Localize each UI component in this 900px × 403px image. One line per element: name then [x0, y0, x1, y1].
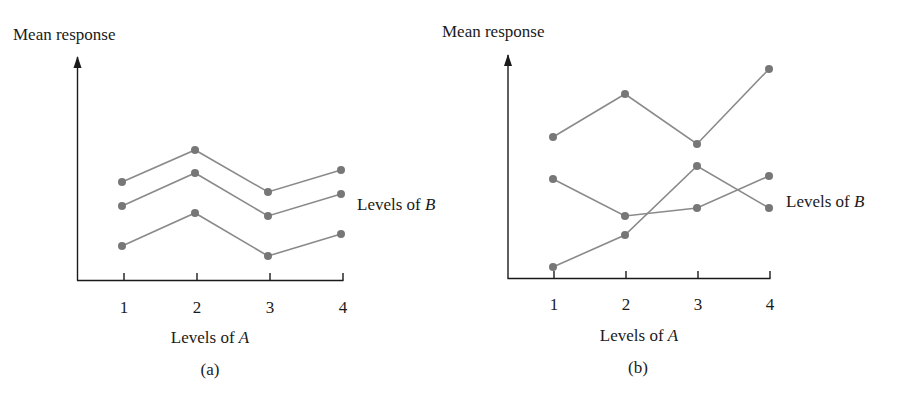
data-point — [191, 169, 199, 177]
data-point — [337, 166, 345, 174]
panel-b: Mean response 1 2 3 4 — [442, 22, 865, 377]
data-point — [264, 188, 272, 196]
panel-a-arrowhead-icon — [74, 56, 82, 68]
panel-b-legend-label: Levels of B — [786, 192, 865, 211]
panel-b-caption: (b) — [628, 358, 648, 377]
panel-a-series — [118, 146, 345, 260]
panel-b-arrowhead-icon — [504, 54, 512, 66]
data-point — [621, 212, 629, 220]
panel-b-series-line-1 — [553, 69, 769, 144]
panel-a-ylabel: Mean response — [13, 25, 115, 44]
panel-a-tick-label: 2 — [193, 298, 202, 317]
data-point — [693, 204, 701, 212]
panel-a-series-line-3 — [122, 213, 341, 256]
panel-a-caption: (a) — [201, 360, 220, 379]
panel-a-tick-label: 1 — [120, 298, 129, 317]
data-point — [765, 172, 773, 180]
data-point — [549, 133, 557, 141]
data-point — [118, 242, 126, 250]
data-point — [118, 178, 126, 186]
panel-a-tick-label: 3 — [266, 298, 275, 317]
figure: Mean response 1 2 3 4 — [0, 0, 900, 403]
panel-a: Mean response 1 2 3 4 — [13, 25, 436, 379]
data-point — [264, 212, 272, 220]
data-point — [621, 90, 629, 98]
panel-b-tick-label: 2 — [622, 295, 631, 314]
data-point — [693, 162, 701, 170]
data-point — [765, 204, 773, 212]
panel-b-series-line-3 — [553, 166, 769, 267]
panel-b-series — [549, 65, 773, 271]
panel-b-tick-label: 3 — [694, 295, 703, 314]
panel-b-tick-label: 1 — [550, 295, 559, 314]
panel-b-axes — [504, 54, 771, 279]
panel-a-legend-label: Levels of B — [357, 195, 436, 214]
panel-a-series-line-1 — [122, 150, 341, 192]
panel-b-series-line-2 — [553, 176, 769, 216]
data-point — [118, 202, 126, 210]
data-point — [621, 231, 629, 239]
panel-b-xlabel: Levels of A — [600, 326, 679, 345]
data-point — [549, 175, 557, 183]
data-point — [549, 263, 557, 271]
panel-a-xlabel: Levels of A — [171, 328, 250, 347]
data-point — [191, 209, 199, 217]
data-point — [264, 252, 272, 260]
panel-b-tick-label: 4 — [766, 295, 775, 314]
data-point — [765, 65, 773, 73]
panel-a-tick-label: 4 — [339, 298, 348, 317]
panel-a-axes — [74, 56, 344, 281]
panel-b-ylabel: Mean response — [442, 22, 544, 41]
data-point — [693, 140, 701, 148]
data-point — [337, 190, 345, 198]
data-point — [191, 146, 199, 154]
data-point — [337, 230, 345, 238]
